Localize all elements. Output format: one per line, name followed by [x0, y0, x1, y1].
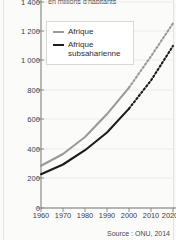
y-tick-label-1000: 1 000	[6, 56, 40, 65]
legend-label-afrique-subsaharienne: Afrique subsaharienne	[68, 40, 120, 59]
x-tick-label-2020: 2020	[162, 211, 176, 220]
population-africa-line-chart: en millions d'habitants	[0, 0, 176, 240]
legend-swatch-afrique-subsaharienne-icon	[53, 44, 64, 46]
chart-legend: Afrique Afrique subsaharienne	[46, 21, 134, 65]
x-tick-label-1970: 1970	[55, 211, 71, 220]
x-tick-label-1960: 1960	[33, 211, 49, 220]
series-line-afrique-solid	[41, 88, 129, 166]
legend-swatch-afrique-icon	[53, 31, 64, 33]
series-line-afrique-subsaharienne-solid	[41, 109, 129, 175]
legend-item-afrique: Afrique	[53, 27, 128, 37]
y-tick-label-200: 200	[6, 174, 40, 183]
x-tick-label-2010: 2010	[143, 211, 159, 220]
x-tick-label-1980: 1980	[77, 211, 93, 220]
legend-label-afrique: Afrique	[68, 27, 93, 37]
y-tick-label-600: 600	[6, 115, 40, 124]
chart-source-note: Source : ONU, 2014	[107, 230, 170, 237]
y-tick-label-1200: 1 200	[6, 27, 40, 36]
y-tick-label-400: 400	[6, 145, 40, 154]
y-tick-label-800: 800	[6, 86, 40, 95]
legend-item-afrique-subsaharienne: Afrique subsaharienne	[53, 40, 128, 59]
x-tick-label-2000: 2000	[121, 211, 137, 220]
x-tick-label-1990: 1990	[99, 211, 115, 220]
y-tick-label-1400: 1 400	[6, 0, 40, 7]
